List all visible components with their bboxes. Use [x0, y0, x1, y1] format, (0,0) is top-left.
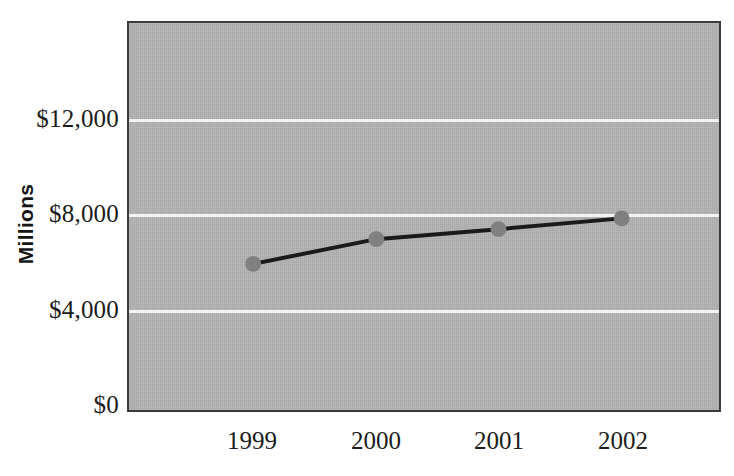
plot-area	[127, 21, 721, 412]
y-tick-label-12000: $12,000	[36, 105, 119, 133]
x-tick-label-2000: 2000	[316, 427, 436, 455]
series-line	[253, 218, 622, 264]
x-tick-label-2001: 2001	[439, 427, 559, 455]
data-point-2001	[491, 221, 507, 237]
line-chart: $12,000 $8,000 $4,000 $0 Millions 1999 2…	[0, 0, 734, 476]
x-tick-label-1999: 1999	[192, 427, 312, 455]
x-tick-label-2002: 2002	[563, 427, 683, 455]
y-tick-label-8000: $8,000	[49, 200, 119, 228]
data-point-1999	[245, 256, 261, 272]
y-tick-label-4000: $4,000	[49, 296, 119, 324]
data-point-2000	[368, 231, 384, 247]
data-point-2002	[614, 210, 630, 226]
y-tick-label-0: $0	[94, 391, 119, 419]
y-axis-title: Millions	[14, 164, 38, 284]
series-svg	[129, 23, 719, 410]
series-markers	[245, 210, 629, 271]
